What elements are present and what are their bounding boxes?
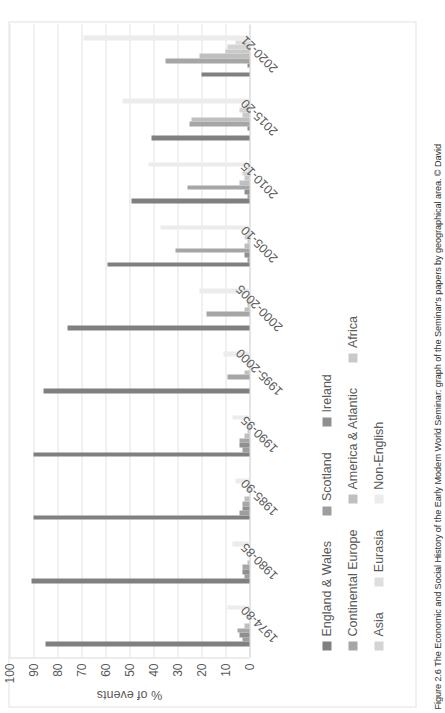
y-axis-tick-label: 0 [242,663,256,670]
bar [239,510,249,515]
x-axis-label-cell: 2005-10 [250,214,312,277]
bar [67,325,249,330]
y-axis-tick-label: 10 [218,663,232,676]
legend-label: Ireland [319,374,333,412]
bar-group [9,404,249,467]
bar [247,63,249,68]
bar [165,58,249,63]
y-axis-tick-label: 70 [74,663,88,676]
y-axis-tick-label: 80 [50,663,64,676]
x-axis-labels: 1974-801980-851985-901990-951995-2000200… [250,24,312,658]
bar [247,194,249,199]
legend-item[interactable]: Eurasia [371,529,385,585]
legend-label: Non-English [371,421,385,489]
bar-group [9,594,249,657]
bar [175,248,249,253]
figure-page: % of events 1009080706050403020100 1974-… [0,0,445,713]
legend-item[interactable]: Ireland [319,374,333,426]
figure-caption: Figure 2.6 The Economic and Social Histo… [432,0,443,713]
bar [148,162,249,167]
rotated-figure-container: % of events 1009080706050403020100 1974-… [0,0,445,713]
figure: % of events 1009080706050403020100 1974-… [0,0,445,713]
x-axis-label-cell: 1980-85 [250,531,312,594]
legend-swatch-icon [374,641,383,650]
bar [244,574,249,579]
x-axis-label-cell: 2010-15 [250,151,312,214]
bar [131,198,249,203]
bar-group [9,341,249,404]
legend-swatch-icon [322,506,331,515]
bar [242,637,249,642]
legend-swatch-icon [348,494,357,503]
x-axis-label-cell: 2015-20 [250,87,312,150]
y-axis-tick-label: 60 [98,663,112,676]
bar [201,72,249,77]
legend-item[interactable]: England & Wales [319,541,333,650]
y-axis-tick-label: 50 [122,663,136,676]
y-axis-tick-label: 30 [170,663,184,676]
bar [107,262,249,267]
chart-card: % of events 1009080706050403020100 1974-… [8,21,416,707]
bar-group [9,530,249,593]
bar [242,447,249,452]
legend-swatch-icon [348,353,357,362]
legend-label: Eurasia [371,529,385,571]
bar [247,126,249,131]
x-axis-label-cell: 1985-90 [250,468,312,531]
legend-item[interactable]: Africa [345,316,359,362]
legend-swatch-icon [348,641,357,650]
y-axis-ticks: 1009080706050403020100 [9,660,249,686]
legend-item[interactable]: Asia [371,612,385,650]
bar-groups [9,24,249,657]
chart-legend: England & WalesScotlandIrelandContinenta… [315,50,411,650]
legend-item[interactable]: Continental Europe [345,529,359,650]
legend-row: Continental EuropeAmerica & AtlanticAfri… [345,50,359,650]
legend-row: England & WalesScotlandIreland [319,50,333,650]
bar [43,388,249,393]
bar [237,628,249,633]
legend-label: England & Wales [319,541,333,636]
x-axis-label-cell: 2020-21 [250,24,312,87]
legend-item[interactable]: America & Atlantic [345,388,359,503]
bar [45,641,249,646]
bar [242,501,249,506]
legend-item[interactable]: Scotland [319,452,333,515]
bar [151,135,249,140]
legend-item[interactable]: Non-English [371,421,385,503]
bar [31,578,249,583]
bar [189,121,249,126]
bar [160,225,249,230]
x-axis-label-cell: 1995-2000 [250,341,312,404]
bar [239,180,249,185]
bar [187,185,249,190]
bar [244,496,249,501]
bar [33,452,249,457]
bar [247,257,249,262]
legend-label: America & Atlantic [345,388,359,489]
bar [244,252,249,257]
bar [242,569,249,574]
y-axis-tick-label: 20 [194,663,208,676]
bar [206,311,249,316]
y-axis-title-label: % of events [96,687,161,701]
legend-label: Scotland [319,452,333,501]
x-axis-label-cell: 1990-95 [250,404,312,467]
legend-label: Asia [371,612,385,636]
legend-label: Continental Europe [345,529,359,636]
bar [191,117,249,122]
bar [242,564,249,569]
y-axis-tick-label: 100 [2,663,16,683]
x-axis-label-cell: 2000-2005 [250,278,312,341]
legend-swatch-icon [374,577,383,586]
bar [242,506,249,511]
legend-swatch-icon [322,641,331,650]
y-axis-title: % of events [9,684,249,704]
bar [244,189,249,194]
bar [239,442,249,447]
bar-group [9,151,249,214]
bar-group [9,214,249,277]
y-axis-tick-label: 90 [26,663,40,676]
bar-group [9,87,249,150]
bar-group [9,24,249,87]
legend-row: AsiaEurasiaNon-English [371,50,385,650]
